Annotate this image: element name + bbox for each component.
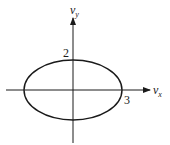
- ellipse-diagram: vy vx 2 3: [0, 0, 170, 145]
- x-intercept-label: 3: [124, 93, 130, 107]
- x-axis-label: vx: [153, 83, 162, 99]
- y-axis-label: vy: [70, 3, 79, 19]
- y-intercept-label: 2: [63, 46, 69, 60]
